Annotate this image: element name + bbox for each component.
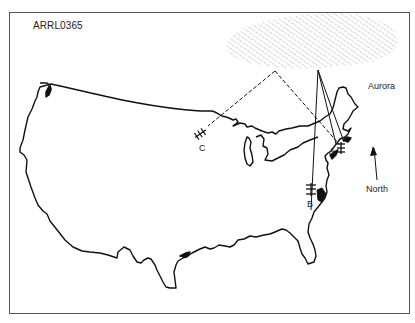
station-b-label: B	[307, 199, 313, 209]
station-a-antenna-icon	[337, 142, 345, 154]
north-arrow-icon	[370, 146, 377, 180]
station-c-label: C	[199, 143, 206, 153]
map-canvas	[0, 0, 415, 323]
station-a-label: A	[329, 146, 335, 156]
north-label: North	[366, 184, 388, 194]
propagation-paths	[208, 70, 344, 210]
station-b-antenna-icon	[306, 183, 316, 196]
aurora-label: Aurora	[368, 81, 395, 91]
aurora-region	[227, 13, 399, 68]
station-c-antenna-icon	[193, 127, 208, 141]
path-c-up	[208, 71, 275, 126]
path-a-dashed	[275, 71, 339, 144]
